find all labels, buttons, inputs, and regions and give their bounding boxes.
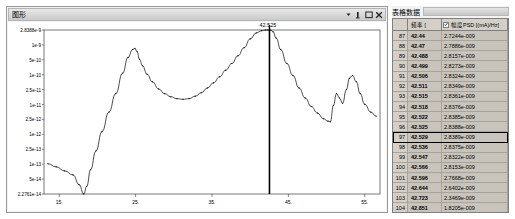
y-axis-tick-label: 2.2761e-14 xyxy=(18,192,42,197)
data-grid-body[interactable]: 8742.442.7244e-0098842.472.7886e-0098942… xyxy=(393,31,508,213)
data-point-marker xyxy=(265,30,266,31)
psd-cell[interactable]: 2.8157e-009 xyxy=(442,51,508,61)
data-point-marker xyxy=(213,82,214,83)
data-point-marker xyxy=(73,174,74,175)
data-point-marker xyxy=(364,104,365,105)
table-row[interactable]: 10142.5962.7668e-009 xyxy=(393,173,508,183)
psd-cell[interactable]: 2.7886e-009 xyxy=(442,41,508,51)
data-point-marker xyxy=(83,194,84,195)
psd-cell[interactable]: 2.8376e-009 xyxy=(442,102,508,112)
graph-window-titlebar[interactable]: 图形 xyxy=(8,8,386,21)
psd-cell[interactable]: 2.8389e-009 xyxy=(442,132,508,142)
table-row[interactable]: 9342.5152.8361e-009 xyxy=(393,92,508,102)
psd-cell[interactable]: 2.7668e-009 xyxy=(442,173,508,183)
data-point-marker xyxy=(195,96,196,97)
psd-cell[interactable]: 2.6402e-009 xyxy=(442,183,508,193)
psd-cell[interactable]: 2.3469e-009 xyxy=(442,193,508,203)
x-axis-tick-label: 15. xyxy=(56,199,63,205)
frequency-cell[interactable]: 42.488 xyxy=(408,51,442,61)
data-point-marker xyxy=(261,30,262,31)
frequency-cell[interactable]: 42.547 xyxy=(408,153,442,163)
table-row[interactable]: 8942.4882.8157e-009 xyxy=(393,51,508,61)
frequency-cell[interactable]: 42.522 xyxy=(408,112,442,122)
table-row[interactable]: 10042.5662.8153e-009 xyxy=(393,163,508,173)
close-icon[interactable] xyxy=(374,10,383,19)
frequency-cell[interactable]: 42.47 xyxy=(408,41,442,51)
data-point-marker xyxy=(207,87,208,88)
data-point-marker xyxy=(139,59,140,60)
data-point-marker xyxy=(333,105,334,106)
table-row[interactable]: 10442.8511.8205e-009 xyxy=(393,203,508,213)
psd-cell[interactable]: 2.8388e-009 xyxy=(442,122,508,132)
frequency-cell[interactable]: 42.596 xyxy=(408,173,442,183)
data-grid[interactable]: 频率 [ 幅度PSD [(mA)/Hz] 8742.442.7244e-0098… xyxy=(392,18,509,213)
table-row[interactable]: 9742.5292.8389e-009 xyxy=(393,132,508,142)
maximize-icon[interactable] xyxy=(364,10,373,19)
row-index-cell: 98 xyxy=(393,143,408,153)
column-header-psd[interactable]: 幅度PSD [(mA)/Hz] xyxy=(442,19,508,30)
table-row[interactable]: 8842.472.7886e-009 xyxy=(393,41,508,51)
table-row[interactable]: 9142.5062.8324e-009 xyxy=(393,72,508,82)
table-row[interactable]: 9042.4992.8273e-009 xyxy=(393,61,508,71)
frequency-cell[interactable]: 42.529 xyxy=(408,132,442,142)
frequency-cell[interactable]: 42.525 xyxy=(408,122,442,132)
frequency-cell[interactable]: 42.44 xyxy=(408,31,442,41)
frequency-cell[interactable]: 42.506 xyxy=(408,72,442,82)
frequency-cell[interactable]: 42.518 xyxy=(408,102,442,112)
table-row[interactable]: 10342.7232.3469e-009 xyxy=(393,193,508,203)
table-row[interactable]: 9642.5252.8388e-009 xyxy=(393,122,508,132)
psd-cell[interactable]: 2.8385e-009 xyxy=(442,112,508,122)
psd-column-checkbox[interactable] xyxy=(443,22,449,28)
data-point-marker xyxy=(56,166,57,167)
table-row[interactable]: 9242.5112.8349e-009 xyxy=(393,82,508,92)
table-row[interactable]: 9842.5362.8375e-009 xyxy=(393,143,508,153)
psd-cell[interactable]: 2.8324e-009 xyxy=(442,72,508,82)
table-panel-header-bar xyxy=(423,7,509,16)
data-point-marker xyxy=(122,73,123,74)
psd-cell[interactable]: 2.7244e-009 xyxy=(442,31,508,41)
psd-cell[interactable]: 1.8205e-009 xyxy=(442,203,508,213)
data-point-marker xyxy=(90,169,91,170)
y-axis-tick-label: 1e-10 xyxy=(29,73,41,78)
frequency-cell[interactable]: 42.499 xyxy=(408,61,442,71)
y-axis-tick-label: 1e-12 xyxy=(29,132,41,137)
minimize-icon[interactable] xyxy=(354,10,363,19)
frequency-cell[interactable]: 42.511 xyxy=(408,82,442,92)
data-point-marker xyxy=(244,47,245,48)
data-point-marker xyxy=(376,116,377,117)
frequency-cell[interactable]: 42.851 xyxy=(408,203,442,213)
psd-cell[interactable]: 2.8153e-009 xyxy=(442,163,508,173)
row-index-cell: 103 xyxy=(393,193,408,203)
data-point-marker xyxy=(108,112,109,113)
frequency-cell[interactable]: 42.644 xyxy=(408,183,442,193)
psd-cell[interactable]: 2.8322e-009 xyxy=(442,153,508,163)
column-header-frequency[interactable]: 频率 [ xyxy=(408,19,442,30)
table-row[interactable]: 9542.5222.8385e-009 xyxy=(393,112,508,122)
data-point-marker xyxy=(176,98,177,99)
y-axis-tick-label: 5e-10 xyxy=(29,58,41,63)
table-row[interactable]: 10242.6442.6402e-009 xyxy=(393,183,508,193)
y-axis-tick-label: 2.8388e-9 xyxy=(20,28,41,33)
frequency-cell[interactable]: 42.536 xyxy=(408,143,442,153)
column-header-index[interactable] xyxy=(393,19,408,30)
frequency-cell[interactable]: 42.723 xyxy=(408,193,442,203)
frequency-cell[interactable]: 42.566 xyxy=(408,163,442,173)
psd-cell[interactable]: 2.8349e-009 xyxy=(442,82,508,92)
data-point-marker xyxy=(346,89,347,90)
psd-cell[interactable]: 2.8273e-009 xyxy=(442,61,508,71)
data-point-marker xyxy=(225,70,226,71)
data-point-marker xyxy=(317,113,318,114)
data-point-marker xyxy=(330,121,331,122)
psd-cell[interactable]: 2.8361e-009 xyxy=(442,92,508,102)
data-point-marker xyxy=(164,93,165,94)
plot-area[interactable]: 2.8388e-91e-95e-101e-102.5e-111e-112.5e-… xyxy=(8,22,386,211)
dropdown-arrow-icon[interactable] xyxy=(344,10,353,19)
psd-cell[interactable]: 2.8375e-009 xyxy=(442,143,508,153)
psd-spectrum-chart[interactable]: 2.8388e-91e-95e-101e-102.5e-111e-112.5e-… xyxy=(8,22,388,213)
table-row[interactable]: 9942.5472.8322e-009 xyxy=(393,153,508,163)
table-data-panel: 表格数据 频率 [ 幅度PSD [(mA)/Hz] 8742.442.7244e… xyxy=(392,6,509,213)
table-row[interactable]: 9442.5182.8376e-009 xyxy=(393,102,508,112)
frequency-cell[interactable]: 42.515 xyxy=(408,92,442,102)
data-point-marker xyxy=(189,98,190,99)
table-row[interactable]: 8742.442.7244e-009 xyxy=(393,31,508,41)
